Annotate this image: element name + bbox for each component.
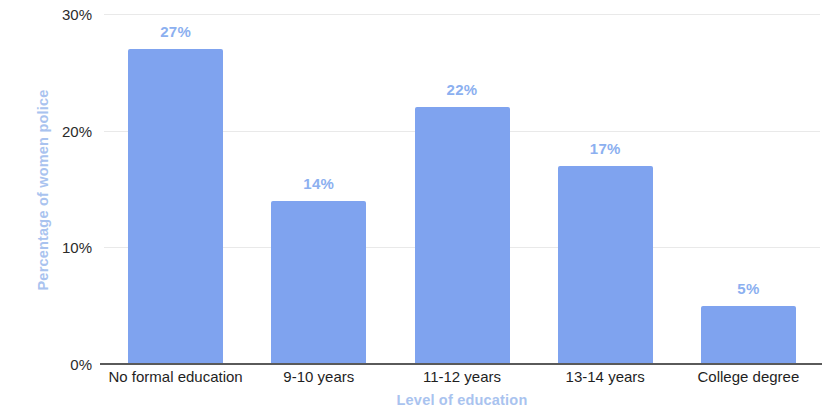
x-axis-baseline <box>100 363 822 365</box>
bar-college-degree[interactable]: 5% <box>701 306 796 364</box>
bar-chart: Percentage of women police 30% 20% 10% 0… <box>0 0 824 418</box>
x-axis-title: Level of education <box>100 392 824 408</box>
x-tick-labels: No formal education 9-10 years 11-12 yea… <box>104 368 820 385</box>
y-tick-label-0: 0% <box>32 356 92 373</box>
bar-series: 27% 14% 22% 17% 5% <box>104 14 820 364</box>
y-tick-label-30: 30% <box>32 6 92 23</box>
bar-value-label: 5% <box>737 280 759 297</box>
plot-area: 30% 20% 10% 0% 27% 14% 22% 17% <box>104 14 820 364</box>
bar-value-label: 14% <box>303 175 334 192</box>
x-tick-label-9-10-years: 9-10 years <box>247 368 390 385</box>
y-axis-title: Percentage of women police <box>35 60 51 320</box>
bar-11-12-years[interactable]: 22% <box>415 107 510 364</box>
bar-value-label: 17% <box>590 140 621 157</box>
x-tick-label-13-14-years: 13-14 years <box>534 368 677 385</box>
x-tick-label-11-12-years: 11-12 years <box>390 368 533 385</box>
bar-9-10-years[interactable]: 14% <box>271 201 366 364</box>
bar-value-label: 22% <box>447 81 478 98</box>
bar-13-14-years[interactable]: 17% <box>558 166 653 364</box>
bar-slot: 22% <box>390 14 533 364</box>
x-tick-label-college-degree: College degree <box>677 368 820 385</box>
bar-slot: 5% <box>677 14 820 364</box>
y-tick-label-10: 10% <box>32 239 92 256</box>
bar-slot: 27% <box>104 14 247 364</box>
bar-value-label: 27% <box>160 23 191 40</box>
y-tick-label-20: 20% <box>32 122 92 139</box>
bar-slot: 17% <box>534 14 677 364</box>
bar-no-formal-education[interactable]: 27% <box>128 49 223 364</box>
x-tick-label-no-formal-education: No formal education <box>104 368 247 385</box>
bar-slot: 14% <box>247 14 390 364</box>
